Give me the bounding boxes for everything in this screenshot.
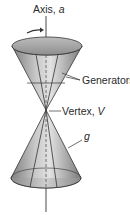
vertex-label: Vertex, V	[62, 105, 106, 117]
cone-drawing: Axis, a Generators Vertex, V g	[0, 0, 130, 215]
generator-g-label: g	[84, 130, 90, 142]
upper-nappe	[12, 37, 82, 110]
axis-label: Axis, a	[33, 3, 65, 15]
double-cone-diagram: Axis, a Generators Vertex, V g	[0, 0, 130, 215]
lower-nappe	[11, 110, 81, 188]
rotation-arrow-icon	[27, 28, 44, 34]
generators-label: Generators	[82, 74, 130, 86]
